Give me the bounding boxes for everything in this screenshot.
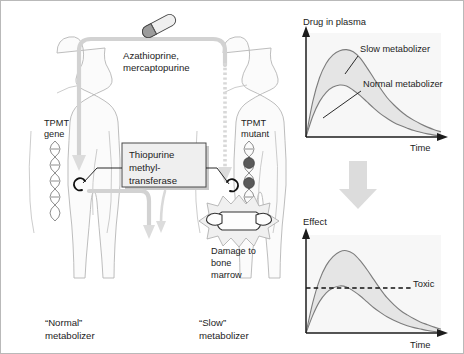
vertebra-bone-icon: [217, 212, 261, 230]
drug-chart-annotation-slow: Slow metabolizer: [360, 44, 430, 54]
drug-chart-x-arrowhead: [437, 133, 448, 141]
right-gene-label-line1: TPMT: [241, 118, 266, 128]
drug-label-line2: mercaptopurine: [123, 62, 190, 73]
drug-chart-y-arrowhead: [302, 26, 310, 37]
panel-link-arrow-icon: [339, 161, 377, 209]
enzyme-box-line3: transferase: [129, 175, 177, 186]
drug-in-plasma-chart: Drug in plasma Time Slow metabolizer Nor…: [302, 16, 448, 153]
left-gene-label-line2: gene: [44, 129, 64, 139]
effect-chart-toxic-label: Toxic: [413, 278, 435, 289]
effect-chart-x-arrowhead: [437, 329, 448, 337]
drug-label-line1: Azathioprine,: [123, 50, 179, 61]
effect-chart-ylabel: Effect: [303, 216, 327, 227]
effect-chart-y-arrowhead: [302, 228, 310, 239]
enzyme-box-line2: methyl-: [129, 162, 160, 173]
vertebra-wing-right: [256, 213, 272, 225]
drug-chart-xlabel: Time: [410, 142, 430, 153]
left-footer-line2: metabolizer: [45, 330, 95, 341]
drug-chart-annotation-normal: Normal metabolizer: [363, 79, 443, 89]
enzyme-box-line1: Thiopurine: [129, 149, 174, 160]
outflow-secondary-arrowhead: [156, 221, 166, 233]
drug-arrow-right-head: [218, 167, 232, 183]
right-gene-label-line2: mutant: [241, 129, 270, 139]
pharmacogenetics-diagram: Azathioprine, mercaptopurine TPMT gene T…: [0, 0, 464, 354]
right-footer-line1: “Slow”: [199, 317, 226, 328]
link-arrow-shape: [339, 161, 377, 209]
left-body-arm-left: [29, 131, 34, 233]
damage-label-line3: marrow: [211, 270, 242, 280]
vertebra-wing-left: [206, 213, 222, 225]
mutation-marker-icon: [244, 158, 255, 169]
outflow-secondary-path: [161, 191, 165, 223]
effect-chart: Effect Time Toxic: [302, 216, 448, 350]
diagram-canvas: Azathioprine, mercaptopurine TPMT gene T…: [1, 1, 464, 354]
damage-label-line2: bone: [211, 258, 231, 268]
outflow-main-arrowhead: [143, 225, 155, 239]
right-footer-line2: metabolizer: [199, 330, 249, 341]
mutation-marker-icon: [244, 178, 255, 189]
left-footer-line1: “Normal”: [45, 317, 82, 328]
drug-chart-ylabel: Drug in plasma: [303, 16, 367, 27]
capsule-icon: [140, 12, 177, 39]
effect-chart-xlabel: Time: [410, 339, 430, 350]
left-gene-label-line1: TPMT: [44, 118, 69, 128]
damage-label-line1: Damage to: [211, 246, 256, 256]
dna-helix-icon: [50, 141, 60, 221]
